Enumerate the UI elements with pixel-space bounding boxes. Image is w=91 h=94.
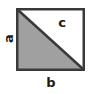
side-label-c: c [54,16,70,29]
geometry-figure-screenshot: a b c [0,0,91,94]
side-label-b: b [43,76,59,89]
side-label-a: a [2,31,15,46]
